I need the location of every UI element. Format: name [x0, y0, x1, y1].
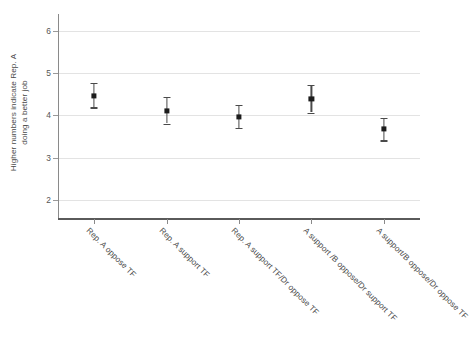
error-bar-cap-lower-4: [380, 140, 387, 141]
plot-area: 23456 Rep. A oppose TFRep. A support TFR…: [58, 14, 420, 219]
x-axis-label-0: Rep. A oppose TF: [85, 226, 138, 279]
y-axis-title: Higher numbers indicate Rep. A doing a b…: [0, 0, 40, 225]
y-tick-label-6: 6: [46, 26, 51, 36]
y-tick-mark: [53, 158, 58, 159]
data-marker-1: [164, 108, 169, 113]
x-tick-mark-1: [167, 219, 168, 224]
x-axis-label-2: Rep. A support TF/Dr oppose TF: [230, 226, 321, 317]
x-tick-mark-2: [239, 219, 240, 224]
y-tick-mark: [53, 73, 58, 74]
y-tick-label-2: 2: [46, 195, 51, 205]
error-bar-cap-lower-0: [91, 107, 98, 108]
y-axis-title-line-1: Higher numbers indicate Rep. A: [10, 54, 19, 171]
y-tick-mark: [53, 31, 58, 32]
gridline-3: [59, 158, 420, 159]
error-bar-cap-upper-2: [236, 105, 243, 106]
error-bar-cap-lower-2: [236, 128, 243, 129]
error-bar-cap-upper-3: [308, 85, 315, 86]
x-tick-mark-0: [94, 219, 95, 224]
error-bar-cap-lower-1: [163, 124, 170, 125]
y-tick-mark: [53, 200, 58, 201]
gridline-5: [59, 73, 420, 74]
y-tick-mark: [53, 115, 58, 116]
data-marker-0: [92, 93, 97, 98]
gridline-2: [59, 200, 420, 201]
y-axis-line: [58, 14, 59, 219]
y-tick-label-3: 3: [46, 153, 51, 163]
y-tick-label-4: 4: [46, 110, 51, 120]
data-marker-3: [309, 96, 314, 101]
y-axis-title-line-2: doing a better job: [20, 54, 31, 171]
x-tick-mark-3: [311, 219, 312, 224]
y-tick-label-5: 5: [46, 68, 51, 78]
data-marker-4: [381, 126, 386, 131]
error-bar-cap-upper-0: [91, 83, 98, 84]
error-bar-cap-upper-1: [163, 97, 170, 98]
x-tick-mark-4: [384, 219, 385, 224]
error-bar-cap-upper-4: [380, 118, 387, 119]
gridline-6: [59, 31, 420, 32]
data-marker-2: [236, 114, 241, 119]
error-bar-cap-lower-3: [308, 113, 315, 114]
x-axis-label-1: Rep. A support TF: [157, 226, 211, 280]
